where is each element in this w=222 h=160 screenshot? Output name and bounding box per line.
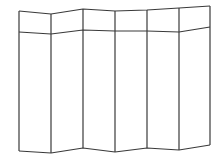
folding-screen-drawing xyxy=(0,0,222,160)
screen-panel xyxy=(147,8,179,150)
